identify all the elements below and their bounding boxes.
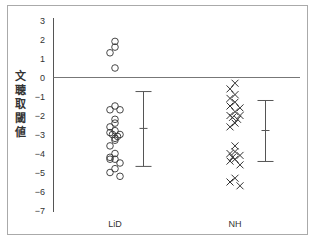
- x-axis-label: LiD: [108, 219, 122, 229]
- y-tick-label: −3: [35, 130, 45, 140]
- chart: 3210−1−2−3−4−5−6−7 文聴取閾値 LiDNH: [0, 0, 311, 243]
- y-tick-label: −6: [35, 187, 45, 197]
- y-axis-title-char: 値: [14, 125, 26, 139]
- y-axis-title-char: 閾: [15, 112, 26, 125]
- y-tick-label: 3: [40, 16, 45, 26]
- chart-border: [8, 6, 308, 235]
- x-axis-label: NH: [229, 219, 242, 229]
- y-axis-title-char: 聴: [15, 83, 26, 97]
- y-tick-label: −4: [35, 149, 45, 159]
- y-tick-label: 1: [40, 54, 45, 64]
- y-axis-title: 文聴取閾値: [14, 69, 27, 139]
- y-tick-label: −7: [35, 206, 45, 216]
- y-axis-title-char: 取: [15, 98, 26, 111]
- y-axis-title-char: 文: [15, 69, 27, 83]
- y-tick-label: −5: [35, 168, 45, 178]
- y-tick-label: −1: [35, 92, 45, 102]
- y-tick-label: −2: [35, 111, 45, 121]
- y-tick-label: 0: [40, 73, 45, 83]
- y-tick-label: 2: [40, 35, 45, 45]
